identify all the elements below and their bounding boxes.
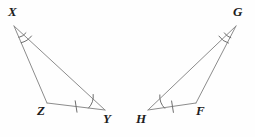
angle-mark-g-double-arc <box>219 33 231 43</box>
vertex-label-h: H <box>136 112 146 125</box>
geometry-figure: X Z Y G F H <box>0 0 255 137</box>
vertex-label-g: G <box>233 5 242 18</box>
vertex-label-f: F <box>196 104 205 117</box>
segment-xy <box>14 26 105 110</box>
triangle-ghf <box>148 26 236 112</box>
triangle-xzy <box>14 26 105 112</box>
vertex-label-z: Z <box>37 104 45 117</box>
vertex-label-x: X <box>8 5 17 18</box>
vertex-label-y: Y <box>103 112 111 125</box>
segment-gh <box>148 26 236 110</box>
